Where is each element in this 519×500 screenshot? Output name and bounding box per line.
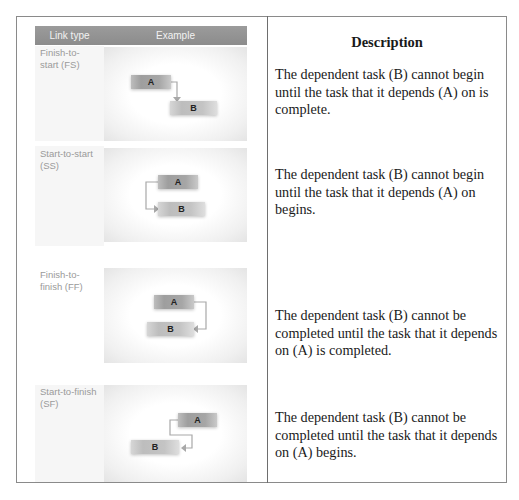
description-fs: The dependent task (B) cannot begin unti… bbox=[275, 66, 503, 119]
task-b-box: B bbox=[131, 440, 179, 454]
connector-arrow-icon bbox=[104, 148, 247, 242]
connector-arrow-icon bbox=[104, 268, 247, 363]
diagram-finish-to-finish: A B bbox=[104, 268, 247, 363]
description-heading: Description bbox=[268, 34, 506, 51]
column-divider bbox=[267, 16, 268, 483]
row-label-fs: Finish-to- start (FS) bbox=[40, 47, 104, 71]
header-link-type: Link type bbox=[35, 26, 104, 45]
connector-arrow-icon bbox=[104, 385, 247, 482]
label-line: Start-to-finish bbox=[40, 386, 104, 398]
label-line: Finish-to- bbox=[40, 269, 104, 281]
row-label-sf: Start-to-finish (SF) bbox=[40, 386, 104, 410]
label-line: finish (FF) bbox=[40, 281, 104, 293]
task-b-box: B bbox=[158, 202, 205, 216]
task-b-box: B bbox=[147, 322, 194, 336]
task-a-box: A bbox=[154, 295, 194, 309]
label-line: Finish-to- bbox=[40, 47, 104, 59]
label-line: (SS) bbox=[40, 160, 104, 172]
row-label-ss: Start-to-start (SS) bbox=[40, 148, 104, 172]
task-a-box: A bbox=[178, 413, 217, 427]
task-a-box: A bbox=[131, 75, 171, 89]
task-a-box: A bbox=[158, 175, 198, 189]
image-header-band: Link type Example bbox=[35, 26, 247, 45]
description-sf: The dependent task (B) cannot be complet… bbox=[275, 409, 503, 462]
diagram-start-to-finish: A B bbox=[104, 385, 247, 482]
description-ff: The dependent task (B) cannot be complet… bbox=[275, 307, 503, 360]
diagram-start-to-start: A B bbox=[104, 148, 247, 242]
description-ss: The dependent task (B) cannot begin unti… bbox=[275, 166, 503, 219]
header-example: Example bbox=[104, 26, 247, 45]
diagram-finish-to-start: A B bbox=[104, 47, 247, 141]
label-line: (SF) bbox=[40, 398, 104, 410]
task-b-box: B bbox=[170, 101, 217, 115]
connector-arrow-icon bbox=[104, 47, 247, 141]
label-line: Start-to-start bbox=[40, 148, 104, 160]
row-label-ff: Finish-to- finish (FF) bbox=[40, 269, 104, 293]
label-line: start (FS) bbox=[40, 59, 104, 71]
